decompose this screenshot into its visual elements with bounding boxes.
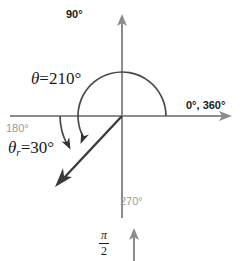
axis-label-90: 90° — [66, 9, 83, 20]
terminal-ray-group — [55, 116, 122, 187]
radian-label-pi-over-2: π 2 — [99, 229, 109, 257]
reference-angle-annotation: θr=30° — [8, 139, 54, 158]
angle-equals-sign: = — [39, 69, 49, 88]
reference-arc-arrowhead — [62, 137, 71, 150]
terminal-ray — [62, 116, 122, 180]
axis-label-270: 270° — [120, 196, 143, 207]
angle-arc-arrowhead — [81, 131, 90, 144]
diagram-canvas — [0, 0, 248, 261]
axis-label-180: 180° — [6, 123, 29, 134]
reference-angle-arc-30 — [60, 116, 67, 144]
radian-numerator: π — [99, 229, 109, 242]
angle-value: 210° — [49, 69, 81, 88]
angle-diagram: 90° 0°, 360° 180° 270° θ=210° θr=30° π 2 — [0, 0, 248, 261]
reference-angle-value: 30° — [30, 138, 54, 157]
angle-annotation: θ=210° — [31, 70, 81, 87]
radian-denominator: 2 — [99, 245, 109, 258]
reference-angle-equals-sign: = — [21, 138, 31, 157]
axis-label-0-360: 0°, 360° — [186, 100, 225, 111]
